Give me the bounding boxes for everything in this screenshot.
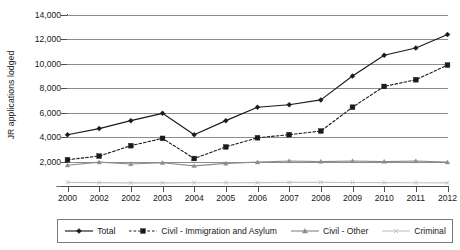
data-point-marker [223, 118, 228, 123]
x-axis-tick-label: 2010 [375, 193, 394, 203]
x-axis-tick-mark [258, 187, 259, 192]
x-axis-tick-label: 2009 [343, 193, 362, 203]
series-civil-other [65, 159, 449, 168]
x-axis-tick-label: 2004 [185, 193, 204, 203]
chart-legend: TotalCivil - Immigration and AsylumCivil… [57, 219, 453, 243]
x-axis-tick-label: 2002 [121, 193, 140, 203]
y-axis-tick-label: 4,000 [39, 132, 61, 142]
data-point-marker [255, 105, 260, 110]
y-axis-tick-label: 10,000 [35, 59, 61, 69]
legend-entry-label: Total [97, 227, 115, 236]
data-point-marker [128, 118, 133, 123]
legend-entry[interactable]: Civil - Other [290, 226, 368, 236]
x-axis-tick-mark [321, 187, 322, 192]
x-axis-tick-mark [289, 187, 290, 192]
y-axis-tick-label: 8,000 [39, 83, 61, 93]
x-axis-tick-mark [194, 187, 195, 192]
data-point-marker [287, 102, 292, 107]
y-axis-tick-labels: 14,00012,00010,0008,0006,0004,0002,000– [20, 0, 66, 192]
x-axis-tick-label: 2008 [311, 193, 330, 203]
x-axis-tick-label: 2007 [280, 193, 299, 203]
data-point-marker [413, 77, 418, 82]
data-point-marker [413, 45, 418, 50]
legend-key-x-icon [381, 226, 411, 236]
legend-entry-label: Criminal [414, 227, 446, 236]
data-point-marker [255, 135, 260, 140]
legend-entry[interactable]: Civil - Immigration and Asylum [128, 226, 277, 236]
x-axis-tick-label: 2005 [216, 193, 235, 203]
data-point-marker [97, 154, 102, 159]
data-point-marker [128, 143, 133, 148]
data-point-marker [223, 145, 228, 150]
legend-key-diamond-icon [64, 226, 94, 236]
x-axis-tick-label: 2012 [438, 193, 457, 203]
y-axis-title-label: JR applications lodged [6, 51, 16, 140]
x-axis-tick-mark [448, 187, 449, 192]
legend-key-square-icon [128, 226, 158, 236]
x-axis-tick-mark [226, 187, 227, 192]
y-axis-tick-label: 14,000 [35, 10, 61, 20]
x-axis-tick-labels: 2000200220022003200420052006200720082009… [67, 193, 449, 207]
x-axis-tick-label: 2003 [153, 193, 172, 203]
data-point-marker [445, 63, 450, 68]
x-axis-tick-label: 2006 [248, 193, 267, 203]
series-line [68, 65, 448, 160]
data-point-marker [287, 132, 292, 137]
legend-entry-label: Civil - Other [323, 227, 368, 236]
x-axis-tick-mark [353, 187, 354, 192]
jr-applications-line-chart: JR applications lodged 14,00012,00010,00… [0, 0, 460, 250]
x-axis-tick-mark [131, 187, 132, 192]
y-axis-tick-label: 12,000 [35, 34, 61, 44]
x-axis-tick-mark [384, 187, 385, 192]
series-criminal [66, 180, 450, 184]
data-point-marker [318, 129, 323, 134]
x-axis-tick-mark [416, 187, 417, 192]
data-point-marker [382, 84, 387, 89]
data-point-marker [445, 32, 450, 37]
x-axis-tick-label: 2011 [407, 193, 425, 203]
data-point-marker [192, 156, 197, 161]
data-point-marker [160, 136, 165, 141]
x-axis-tick-mark [99, 187, 100, 192]
legend-entry-label: Civil - Immigration and Asylum [161, 227, 277, 236]
y-axis-tick-label: 6,000 [39, 108, 61, 118]
x-axis-tick-mark [163, 187, 164, 192]
legend-entry[interactable]: Total [64, 226, 115, 236]
plot-area [67, 15, 448, 186]
x-axis-tick-label: 2002 [90, 193, 109, 203]
y-axis-tick-label: 2,000 [39, 157, 61, 167]
series-layer [67, 15, 448, 186]
x-axis-tick-mark [68, 187, 69, 192]
data-point-marker [97, 126, 102, 131]
legend-entry[interactable]: Criminal [381, 226, 446, 236]
data-point-marker [65, 157, 70, 162]
legend-key-triangle-icon [290, 226, 320, 236]
data-point-marker [350, 105, 355, 110]
x-axis-tick-label: 2000 [58, 193, 77, 203]
series-civil-immigration-and-asylum [65, 63, 450, 162]
y-axis-title: JR applications lodged [0, 0, 22, 190]
